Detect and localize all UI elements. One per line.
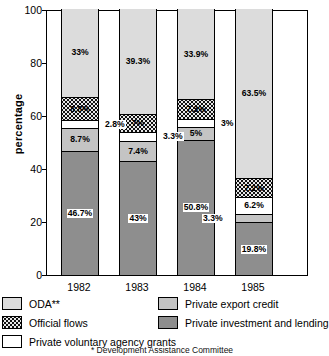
y-tick-100: 100 (8, 5, 42, 15)
segment-official-1984: 7.3% (178, 99, 214, 118)
segment-official-1985: 7.2% (236, 178, 272, 197)
y-tick-60: 60 (8, 111, 42, 121)
x-tick-1985: 1985 (230, 281, 276, 293)
segment-oda-1984: 33.9% (178, 9, 214, 99)
segment-label-outside: 3.3% (202, 214, 224, 223)
segment-oda-1985: 63.5% (236, 9, 272, 178)
segment-pvag-1982: 2.8% (62, 120, 98, 127)
legend-swatch-export-icon (158, 297, 178, 310)
segment-export-1983: 7.4% (120, 141, 156, 161)
y-axis: percentage 100 80 60 40 20 0 (0, 0, 42, 280)
legend-swatch-oda-icon (2, 297, 22, 310)
segment-label-outside: 3.3% (162, 132, 184, 141)
segment-label: 63.5% (242, 89, 266, 98)
bar-1985[interactable]: 63.5% 7.2% 6.2% 3.3% 19.8% (235, 9, 273, 275)
segment-label: 39.3% (126, 57, 150, 66)
segment-label: 7.2% (244, 184, 264, 193)
chart-footnote: * Development Assistance Committee (0, 345, 324, 355)
y-tick-20: 20 (8, 217, 42, 227)
plot-area: 33% 8.8% 2.8% 8.7% 46.7% 39.3% 7% 3.3% 7… (46, 10, 308, 276)
legend-item-oda[interactable]: ODA** (2, 297, 60, 310)
legend-swatch-invest-icon (158, 316, 178, 329)
segment-oda-1982: 33% (62, 9, 98, 97)
segment-label: 19.8% (241, 245, 267, 254)
legend-label: Official flows (29, 317, 88, 329)
segment-label: 5% (190, 129, 202, 138)
segment-label: 50.8% (183, 203, 209, 212)
bar-1983[interactable]: 39.3% 7% 3.3% 7.4% 43% (119, 9, 157, 275)
segment-pvag-1983: 3.3% (120, 132, 156, 141)
segment-label: 7% (132, 119, 144, 128)
segment-invest-1983: 43% (120, 161, 156, 275)
segment-export-1985: 3.3% (236, 214, 272, 223)
segment-label: 46.7% (67, 209, 93, 218)
segment-oda-1983: 39.3% (120, 9, 156, 114)
segment-pvag-1984: 3% (178, 119, 214, 127)
legend-item-private-export-credit[interactable]: Private export credit (158, 297, 278, 310)
x-tick-1982: 1982 (56, 281, 102, 293)
legend-swatch-official-icon (2, 316, 22, 329)
segment-invest-1984: 50.8% (178, 140, 214, 275)
legend-item-private-investment-and-lending[interactable]: Private investment and lending (158, 316, 329, 329)
bar-1982[interactable]: 33% 8.8% 2.8% 8.7% 46.7% (61, 9, 99, 275)
segment-label: 7.3% (186, 105, 206, 114)
legend-label: Private export credit (185, 298, 278, 310)
segment-label-outside: 2.8% (104, 120, 126, 129)
segment-invest-1982: 46.7% (62, 151, 98, 275)
segment-label: 8.7% (70, 135, 90, 144)
segment-label: 7.4% (128, 147, 148, 156)
segment-export-1982: 8.7% (62, 128, 98, 151)
x-tick-1984: 1984 (172, 281, 218, 293)
legend-item-official-flows[interactable]: Official flows (2, 316, 88, 329)
legend-label: Private investment and lending (185, 317, 329, 329)
segment-invest-1985: 19.8% (236, 222, 272, 275)
segment-pvag-1985: 6.2% (236, 197, 272, 213)
segment-label-outside: 3% (220, 119, 234, 128)
segment-label: 6.2% (244, 201, 264, 210)
bar-1984[interactable]: 33.9% 7.3% 3% 5% 50.8% (177, 9, 215, 275)
y-tick-0: 0 (8, 270, 42, 280)
y-tick-80: 80 (8, 58, 42, 68)
y-axis-title: percentage (12, 84, 24, 164)
x-tick-1983: 1983 (114, 281, 160, 293)
segment-label: 33% (71, 48, 88, 57)
segment-label: 43% (128, 214, 147, 223)
y-tick-40: 40 (8, 164, 42, 174)
legend-label: ODA** (29, 298, 60, 310)
segment-label: 33.9% (184, 50, 208, 59)
segment-label: 8.8% (70, 105, 90, 114)
segment-official-1982: 8.8% (62, 97, 98, 120)
